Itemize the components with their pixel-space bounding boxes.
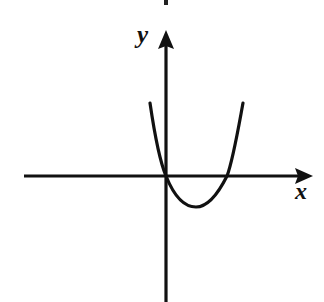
parabola-curve bbox=[150, 103, 243, 207]
scan-speck-artifact bbox=[164, 0, 168, 5]
figure-root: y x bbox=[0, 0, 324, 302]
x-axis-label: x bbox=[295, 179, 307, 203]
coordinate-graph bbox=[0, 0, 324, 302]
y-axis-label: y bbox=[137, 22, 148, 47]
